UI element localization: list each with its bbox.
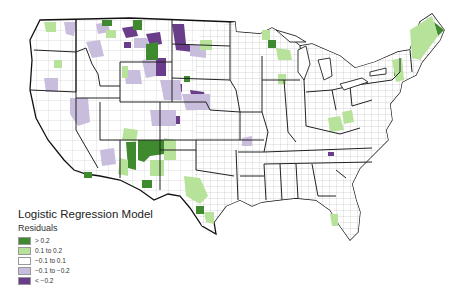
legend-swatch [18,277,31,285]
legend-swatch [18,247,31,255]
legend-item-neg-0-1-to-neg-0-2: −0.1 to −0.2 [18,266,153,276]
legend-item-neutral: −0.1 to 0.1 [18,256,153,266]
legend-label: −0.1 to 0.1 [35,257,66,264]
legend-title: Logistic Regression Model [18,208,153,220]
legend-label: 0.1 to 0.2 [35,247,62,254]
legend-subtitle: Residuals [18,223,153,233]
legend-swatch [18,267,31,275]
legend-swatch [18,257,31,265]
legend-item-0-1-to-0-2: 0.1 to 0.2 [18,246,153,256]
legend-item-gt-0-2: > 0.2 [18,236,153,246]
legend-swatch [18,237,31,245]
legend-label: −0.1 to −0.2 [35,267,70,274]
legend-label: < −0.2 [35,277,53,284]
map-legend: Logistic Regression Model Residuals > 0.… [18,208,153,286]
legend-label: > 0.2 [35,237,50,244]
legend-item-lt-neg-0-2: < −0.2 [18,276,153,286]
